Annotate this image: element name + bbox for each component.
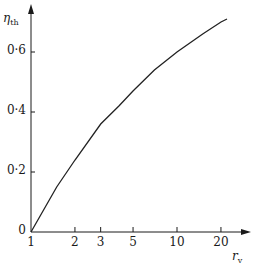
y-tick-label: 0·6	[0, 44, 26, 56]
x-tick-label: 5	[123, 236, 143, 248]
efficiency-curve	[31, 19, 227, 232]
x-ticks	[75, 227, 221, 232]
x-tick-label: 3	[91, 236, 111, 248]
x-axis-title: rv	[232, 250, 242, 267]
y-tick-label: 0·4	[0, 104, 26, 116]
y-tick-label: 0	[0, 224, 26, 236]
axes	[28, 4, 251, 235]
y-axis-title: ηth	[3, 12, 19, 29]
x-axis-title-sub: v	[238, 256, 243, 265]
x-tick-label: 10	[167, 236, 187, 248]
chart-canvas	[0, 0, 256, 267]
x-axis-arrow-icon	[241, 229, 251, 235]
y-ticks	[31, 52, 35, 172]
x-tick-label: 20	[211, 236, 231, 248]
y-axis-arrow-icon	[28, 4, 34, 14]
x-tick-label: 2	[65, 236, 85, 248]
x-tick-label: 1	[21, 236, 41, 248]
y-tick-label: 0·2	[0, 164, 26, 176]
y-axis-title-sub: th	[10, 18, 18, 27]
